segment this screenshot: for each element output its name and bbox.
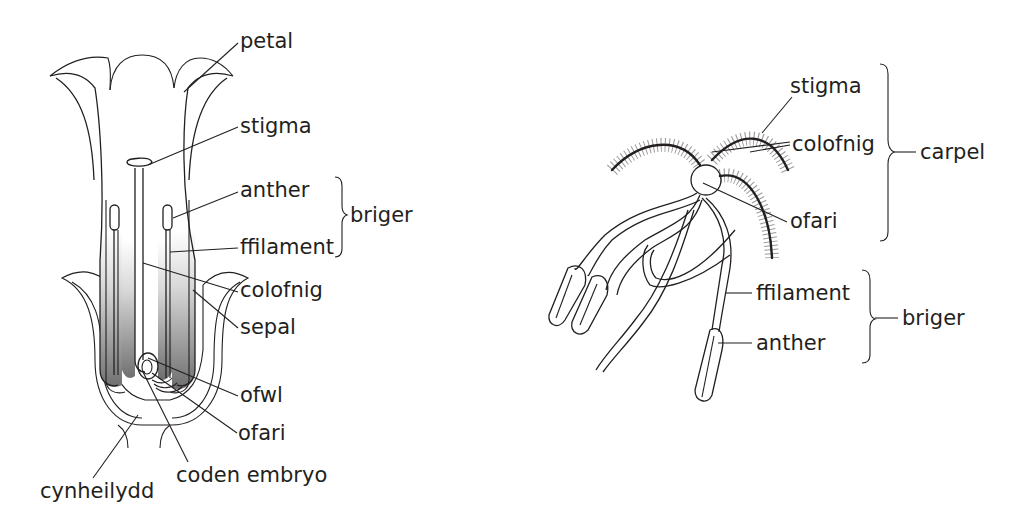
receptacle [118,425,170,448]
label-receptacle: cynheilydd [40,479,154,503]
ovary-right [691,165,721,195]
briger-brace-right [862,270,875,363]
right-leader-lines [703,97,792,343]
label-style-left: colofnig [240,278,323,302]
flower-structure-figure: petal stigma anther ffilament briger col… [0,0,1017,525]
label-stigma-left: stigma [240,114,312,138]
label-anther-left: anther [240,178,310,202]
label-ovary-right: ofari [790,209,838,233]
sepal-shape [62,272,248,425]
feathery-stigmas [612,139,790,258]
label-briger-left: briger [350,203,413,227]
label-filament-right: ffilament [756,281,850,305]
label-briger-right: briger [902,306,965,330]
left-flower-section: petal stigma anther ffilament briger col… [40,29,413,503]
label-ovary-left: ofari [238,421,286,445]
anthers [549,266,723,401]
label-stigma-right: stigma [790,74,862,98]
label-carpel: carpel [920,140,985,164]
label-sepal: sepal [240,315,296,339]
label-petal: petal [240,29,293,53]
right-flower-wind: stigma colofnig carpel ofari ffilament b… [549,64,985,401]
carpel-brace [880,64,894,241]
label-style-right: colofnig [792,132,875,156]
filaments [575,193,735,372]
briger-brace-left [335,177,347,257]
label-embryo-sac: coden embryo [176,463,327,487]
label-ovule: ofwl [240,383,283,407]
label-filament-left: ffilament [240,235,334,259]
label-anther-right: anther [756,331,826,355]
